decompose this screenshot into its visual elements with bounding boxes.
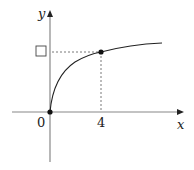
curve-point-at-4 [98,49,103,54]
origin-label: 0 [37,115,45,130]
function-curve [50,43,162,112]
origin-point [47,109,52,114]
y-axis-label: y [37,6,46,21]
x-axis-arrow-icon [177,109,184,115]
y-axis-arrow-icon [47,10,53,17]
graph-canvas: y 0 4 x [0,0,194,170]
x-axis-label: x [177,117,185,132]
blank-answer-box[interactable] [36,46,46,56]
x-tick-label-4: 4 [97,115,105,130]
